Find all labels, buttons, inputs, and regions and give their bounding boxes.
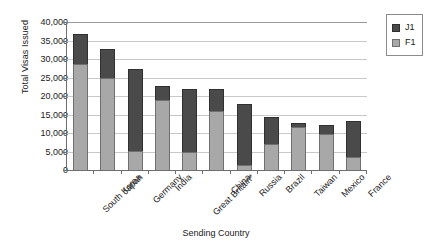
stacked-bar-chart: Total Visas Issued 40,00035,00030,00025,… (0, 0, 440, 250)
y-axis-tick-label: 40,000 (16, 18, 68, 27)
x-axis-tick-label: France (367, 172, 394, 199)
bar-france[interactable] (346, 22, 361, 170)
bar-brazil[interactable] (264, 22, 279, 170)
bar-segment-f1 (319, 134, 334, 170)
y-axis-tick-label: 5,000 (16, 148, 68, 157)
bar-south-korea[interactable] (73, 22, 88, 170)
y-axis-tick-label: 20,000 (16, 92, 68, 101)
bar-group (67, 22, 367, 170)
bar-segment-j1 (128, 69, 143, 150)
x-axis-tick-label: Taiwan (312, 172, 339, 199)
bar-segment-j1 (264, 117, 279, 144)
legend-swatch-f1-icon (392, 39, 400, 47)
x-axis-tick-label: Mexico (339, 172, 366, 199)
bar-segment-j1 (182, 89, 197, 153)
bar-japan[interactable] (100, 22, 115, 170)
x-axis-tick-label: Brazil (283, 172, 306, 195)
y-axis-tick-label: 10,000 (16, 129, 68, 138)
legend: J1F1 (386, 14, 423, 56)
x-axis-title: Sending Country (66, 228, 366, 238)
y-axis-tick-label: 35,000 (16, 37, 68, 46)
y-axis-tick-label: 0 (16, 166, 68, 175)
plot-area (66, 22, 367, 171)
bar-russia[interactable] (237, 22, 252, 170)
x-axis-tick-label: Russia (257, 172, 284, 199)
bar-mexico[interactable] (319, 22, 334, 170)
bar-segment-f1 (291, 127, 306, 170)
x-axis-tick-label: Japan (120, 172, 144, 196)
bar-segment-f1 (128, 151, 143, 170)
bar-segment-j1 (209, 89, 224, 111)
bar-segment-j1 (100, 49, 115, 78)
bar-segment-j1 (319, 125, 334, 135)
bar-segment-j1 (73, 34, 88, 64)
bar-india[interactable] (155, 22, 170, 170)
bar-segment-j1 (346, 121, 361, 157)
bar-germany[interactable] (128, 22, 143, 170)
y-axis-tick-label: 15,000 (16, 111, 68, 120)
x-axis-tick-labels: South KoreaJapanGermanyIndiaGreat Britai… (66, 172, 366, 230)
bar-segment-f1 (155, 100, 170, 170)
bar-segment-f1 (100, 78, 115, 170)
bar-segment-j1 (237, 104, 252, 165)
legend-item-j1[interactable]: J1 (392, 20, 416, 35)
legend-label: F1 (405, 38, 416, 47)
x-axis-tick (366, 170, 367, 174)
bar-segment-f1 (182, 152, 197, 170)
bar-china[interactable] (209, 22, 224, 170)
bar-segment-f1 (73, 64, 88, 170)
y-axis-tick-label: 30,000 (16, 55, 68, 64)
legend-item-f1[interactable]: F1 (392, 35, 416, 50)
y-axis-tick-label: 25,000 (16, 74, 68, 83)
legend-swatch-j1-icon (392, 24, 400, 32)
legend-label: J1 (405, 23, 415, 32)
bar-segment-f1 (264, 144, 279, 170)
bar-segment-f1 (209, 111, 224, 170)
bar-taiwan[interactable] (291, 22, 306, 170)
bar-great-britain[interactable] (182, 22, 197, 170)
bar-segment-j1 (155, 86, 170, 100)
bar-segment-f1 (346, 157, 361, 170)
